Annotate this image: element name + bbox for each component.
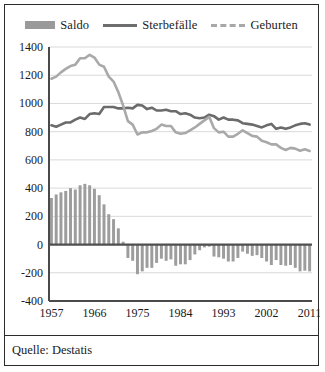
svg-text:1200: 1200	[19, 68, 43, 82]
svg-text:1957: 1957	[39, 306, 63, 320]
legend-item-sterbefaelle: Sterbefälle	[103, 19, 197, 32]
chart-legend: Saldo Sterbefälle Geburten	[5, 5, 318, 39]
legend-item-geburten: Geburten	[211, 19, 297, 32]
svg-text:2002: 2002	[255, 306, 279, 320]
figure-container: Saldo Sterbefälle Geburten 1400120010008…	[4, 4, 319, 366]
bar-swatch-icon	[25, 21, 55, 29]
svg-text:1993: 1993	[212, 306, 236, 320]
svg-text:1975: 1975	[125, 306, 149, 320]
svg-text:400: 400	[25, 181, 43, 195]
dashed-line-swatch-icon	[211, 24, 245, 27]
solid-line-swatch-icon	[103, 24, 137, 27]
svg-text:1400: 1400	[19, 40, 43, 54]
svg-text:200: 200	[25, 209, 43, 223]
svg-text:0: 0	[37, 238, 43, 252]
legend-label-saldo: Saldo	[60, 19, 89, 32]
svg-text:800: 800	[25, 125, 43, 139]
lines-group	[51, 55, 309, 151]
x-tick-labels: 1957196619751984199320022011	[39, 306, 320, 320]
svg-text:-200: -200	[21, 266, 43, 280]
svg-text:1000: 1000	[19, 96, 43, 110]
svg-text:2011: 2011	[298, 306, 320, 320]
legend-item-saldo: Saldo	[25, 19, 89, 32]
legend-label-geburten: Geburten	[250, 19, 297, 32]
source-band: Quelle: Destatis	[5, 335, 318, 365]
svg-text:1966: 1966	[82, 306, 106, 320]
source-text: Quelle: Destatis	[12, 343, 92, 358]
plot-area: 1400120010008006004002000-200-400 195719…	[5, 39, 318, 335]
chart-svg: 1400120010008006004002000-200-400 195719…	[5, 39, 320, 331]
svg-text:1984: 1984	[169, 306, 193, 320]
y-tick-labels: 1400120010008006004002000-200-400	[19, 40, 43, 308]
svg-text:600: 600	[25, 153, 43, 167]
bars-group	[50, 184, 311, 274]
legend-label-sterbefaelle: Sterbefälle	[142, 19, 197, 32]
